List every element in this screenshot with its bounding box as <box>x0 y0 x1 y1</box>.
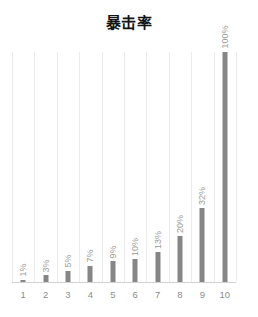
x-tick-label: 6 <box>124 288 146 302</box>
bar[interactable] <box>133 259 138 282</box>
x-tick-label: 3 <box>57 288 79 302</box>
chart-container: 暴击率 1%3%5%7%9%10%13%20%32%100% 123456789… <box>0 0 258 317</box>
bar[interactable] <box>200 208 205 282</box>
x-axis-baseline <box>12 282 236 283</box>
x-tick-label: 9 <box>191 288 213 302</box>
bar[interactable] <box>110 261 115 282</box>
bar[interactable] <box>65 271 70 283</box>
bar[interactable] <box>222 52 227 282</box>
bar-value-label: 20% <box>175 215 185 233</box>
bar-value-label: 32% <box>197 187 207 205</box>
bar[interactable] <box>43 275 48 282</box>
bar-value-label: 3% <box>41 259 51 272</box>
x-tick-label: 1 <box>12 288 34 302</box>
x-tick-label: 2 <box>34 288 56 302</box>
gridline <box>236 52 237 282</box>
bar-value-label: 7% <box>85 250 95 263</box>
bar-value-label: 9% <box>108 245 118 258</box>
bar-value-label: 1% <box>18 264 28 277</box>
bar-value-label: 10% <box>130 238 140 256</box>
x-tick-label: 4 <box>79 288 101 302</box>
bar[interactable] <box>155 252 160 282</box>
plot-area: 1%3%5%7%9%10%13%20%32%100% <box>12 52 236 282</box>
bar-value-label: 13% <box>153 231 163 249</box>
bar-value-label: 5% <box>63 254 73 267</box>
bar-value-label: 100% <box>220 25 230 48</box>
x-tick-label: 8 <box>169 288 191 302</box>
x-axis-tick-labels: 12345678910 <box>12 288 236 304</box>
x-tick-label: 10 <box>214 288 236 302</box>
x-tick-label: 5 <box>102 288 124 302</box>
bar[interactable] <box>177 236 182 282</box>
bar[interactable] <box>88 266 93 282</box>
x-tick-label: 7 <box>146 288 168 302</box>
bars-layer: 1%3%5%7%9%10%13%20%32%100% <box>12 52 236 282</box>
